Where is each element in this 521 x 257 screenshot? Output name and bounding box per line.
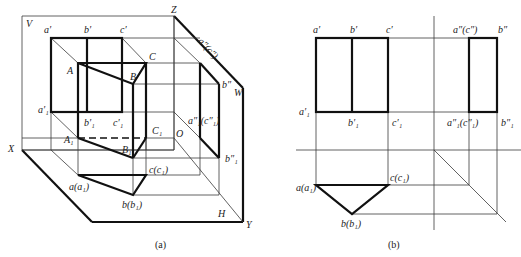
label-origin: O (176, 128, 183, 139)
label-B1: B₁ (122, 144, 132, 155)
label-C: C (149, 51, 156, 62)
projection-diagram: V Z X Y O W H a′ b′ c′ a′₁ b′₁ c′₁ A B C… (0, 0, 521, 257)
label-b-b2: b″ (498, 24, 508, 35)
label-A1: A₁ (63, 134, 74, 145)
label-c-prime: c′ (120, 24, 127, 35)
label-b-a1-prime: a′₁ (299, 106, 310, 117)
label-b-c-prime: c′ (386, 24, 393, 35)
front-view (316, 38, 388, 112)
label-b-b-b1: b(b₁) (341, 218, 362, 230)
label-a1-prime: a′₁ (38, 104, 49, 115)
label-c1-prime: c′₁ (113, 117, 123, 128)
figure-a-pictorial: V Z X Y O W H a′ b′ c′ a′₁ b′₁ c′₁ A B C… (7, 4, 253, 251)
label-b-b1-prime: b′₁ (348, 117, 359, 128)
label-x-axis: X (7, 143, 15, 154)
label-b21: b″₁ (225, 153, 238, 164)
label-A: A (66, 65, 74, 76)
side-view (469, 38, 497, 112)
label-b-b-prime: b′ (350, 24, 358, 35)
label-a2-c2: a″(c″) (195, 35, 221, 62)
label-b1-prime: b′₁ (84, 117, 95, 128)
label-b-a-prime: a′ (313, 24, 321, 35)
label-h-plane: H (217, 208, 226, 219)
caption-b: (b) (388, 239, 400, 251)
label-b-a2-c2: a″(c″) (453, 24, 478, 36)
label-a21-c21: a″₁(c″₁) (188, 115, 220, 127)
label-z-axis: Z (171, 4, 177, 15)
label-b-c-c1: c(c₁) (390, 172, 410, 184)
caption-a: (a) (155, 239, 166, 251)
label-b-a-a1: a(a₁) (296, 182, 317, 194)
side-view-on-w (200, 63, 219, 158)
label-b-b1: b(b₁) (122, 199, 143, 211)
label-C1: C₁ (152, 125, 162, 136)
label-y-axis: Y (246, 219, 253, 230)
label-v-plane: V (26, 18, 34, 29)
label-b-c1-prime: c′₁ (392, 117, 402, 128)
label-c-c1: c(c₁) (149, 164, 169, 176)
label-b-prime: b′ (84, 24, 92, 35)
label-a-prime: a′ (44, 24, 52, 35)
label-a-a1: a(a₁) (69, 181, 90, 193)
label-B: B (130, 71, 136, 82)
label-b-b21: b″₁ (501, 117, 514, 128)
label-b2: b″ (222, 79, 232, 90)
miter-line (434, 150, 506, 222)
label-b-a21-c21: a″₁(c″₁) (447, 117, 479, 129)
figure-b-orthographic: a′ b′ c′ a′₁ b′₁ c′₁ a″(c″) b″ a″₁(c″₁) … (296, 16, 521, 251)
top-view (316, 185, 388, 214)
oy-axis (174, 138, 243, 222)
